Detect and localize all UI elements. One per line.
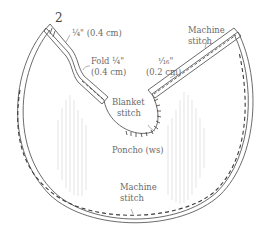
leader-machine-bottom: [131, 209, 133, 214]
label-quarter-inch: ¼" (0.4 cm): [72, 28, 122, 38]
step-number: 2: [55, 11, 63, 25]
label-blanket-line2: stitch: [117, 108, 141, 118]
label-poncho: Poncho (ws): [112, 145, 164, 155]
label-machine-bottom-line2: stitch: [120, 193, 144, 203]
label-sixteenth-line2: (0.2 cm): [146, 67, 181, 77]
label-machine-top-line1: Machine: [188, 25, 225, 35]
label-machine-top-line2: stitch: [188, 36, 212, 46]
label-machine-bottom-line1: Machine: [120, 182, 157, 192]
leader-quarter: [66, 35, 70, 42]
poncho-sewing-diagram: 2 ¼" (0.4 cm) Fold ¼" (0.4 cm) ¹⁄₁₆" (0.…: [0, 0, 273, 235]
label-blanket-line1: Blanket: [112, 97, 145, 107]
label-sixteenth-line1: ¹⁄₁₆": [158, 56, 173, 66]
label-fold-line2: (0.4 cm): [91, 67, 126, 77]
label-fold-line1: Fold ¼": [91, 56, 124, 66]
leader-fold: [83, 66, 90, 70]
